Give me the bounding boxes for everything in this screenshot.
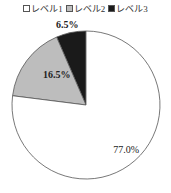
pie-chart: 77.0% 16.5% 6.5% — [0, 0, 171, 193]
slice-label-level1: 77.0% — [113, 144, 139, 155]
slice-label-level2: 16.5% — [43, 69, 71, 80]
slice-label-level3: 6.5% — [56, 19, 79, 30]
pie-slices — [12, 31, 160, 179]
